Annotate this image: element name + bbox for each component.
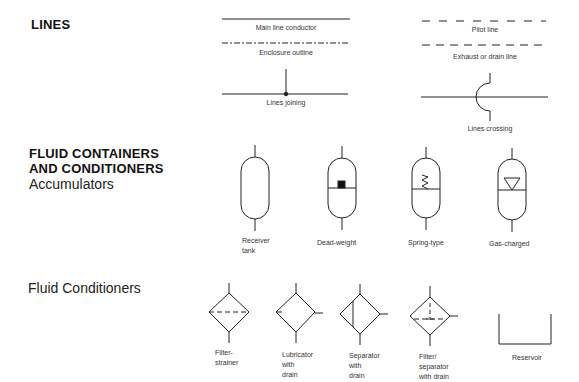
fluid-conditioners-subheading: Fluid Conditioners — [28, 280, 141, 296]
pilot-line-label: Pilot line — [422, 25, 548, 35]
lubricator-label: Lubricator with drain — [282, 350, 313, 380]
lines-heading: LINES — [31, 17, 70, 32]
filter-strainer-label: Filter- strainer — [215, 348, 238, 368]
receiver-tank-label: Receiver tank — [242, 236, 270, 256]
main-line-label: Main line conductor — [222, 23, 350, 33]
exhaust-line-label: Exhaust or drain line — [422, 52, 548, 62]
separator-icon — [340, 294, 380, 334]
lines-joining-label: Lines joining — [222, 98, 350, 108]
containers-heading-line2: AND CONDITIONERS — [29, 161, 164, 176]
filter-separator-label: Filter/ separator with drain — [419, 352, 449, 382]
gas-charged-label: Gas-charged — [489, 239, 529, 249]
spring-icon — [422, 175, 428, 189]
accumulators-subheading: Accumulators — [29, 176, 114, 192]
filter-separator-icon — [410, 297, 450, 335]
separator-label: Separator with drain — [349, 351, 380, 381]
junction-dot-icon — [284, 92, 288, 96]
deadweight-label: Dead-weight — [317, 238, 356, 248]
spring-type-label: Spring-type — [408, 238, 444, 248]
enclosure-outline-label: Enclosure outline — [222, 48, 350, 58]
gas-triangle-icon — [504, 178, 520, 190]
receiver-tank-icon — [241, 157, 269, 219]
containers-heading-line1: FLUID CONTAINERS — [29, 146, 159, 161]
reservoir-label: Reservoir — [512, 353, 542, 363]
reservoir-icon — [499, 314, 551, 344]
lines-crossing-label: Lines crossing — [440, 124, 540, 134]
